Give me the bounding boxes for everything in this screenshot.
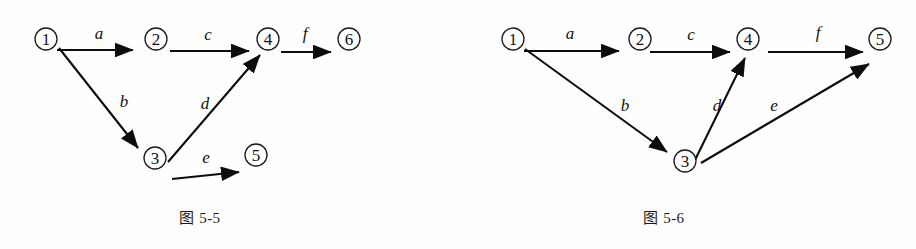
- node-1: 1: [35, 28, 57, 50]
- node-1-label: 1: [42, 30, 51, 49]
- edge-e: [701, 64, 869, 163]
- figure-5-6-graph: a c f b d e 1 2 4: [458, 0, 916, 200]
- edge-label-a: a: [566, 24, 575, 43]
- nodes-group: 1 2 4 5 3: [502, 28, 891, 172]
- node-3: 3: [144, 147, 166, 169]
- edges-group: [57, 48, 331, 179]
- edge-label-d: d: [201, 94, 210, 113]
- edge-label-b: b: [120, 92, 129, 111]
- edge-label-a: a: [95, 24, 104, 43]
- node-5-label: 5: [252, 146, 261, 165]
- node-5: 5: [869, 28, 891, 50]
- node-4-label: 4: [264, 30, 273, 49]
- node-2: 2: [145, 28, 167, 50]
- edges-group: [524, 49, 869, 163]
- figure-page: a c f b d e 1 2 4: [0, 0, 916, 249]
- node-3: 3: [674, 150, 696, 172]
- figure-5-5: a c f b d e 1 2 4: [0, 0, 458, 249]
- edge-d: [168, 55, 260, 162]
- edge-label-e: e: [770, 96, 778, 115]
- edge-label-c: c: [687, 25, 695, 44]
- edge-label-b: b: [621, 96, 630, 115]
- edge-labels-group: a c f b d e: [566, 23, 823, 115]
- edge-label-f: f: [816, 23, 823, 42]
- node-4: 4: [737, 28, 759, 50]
- node-5: 5: [245, 144, 267, 166]
- node-4: 4: [257, 28, 279, 50]
- edge-label-d: d: [713, 96, 722, 115]
- edge-b: [525, 49, 667, 152]
- edge-e: [172, 172, 239, 179]
- edge-label-f: f: [303, 24, 310, 43]
- node-6: 6: [338, 28, 360, 50]
- figure-5-6-caption: 图 5-6: [458, 206, 870, 227]
- node-2-label: 2: [636, 30, 645, 49]
- node-2: 2: [629, 28, 651, 50]
- edge-label-e: e: [202, 148, 210, 167]
- figure-5-6: a c f b d e 1 2 4: [458, 0, 916, 249]
- figure-5-5-caption: 图 5-5: [0, 206, 400, 227]
- node-2-label: 2: [152, 30, 161, 49]
- node-1: 1: [502, 28, 524, 50]
- node-3-label: 3: [151, 149, 160, 168]
- node-5-label: 5: [876, 30, 885, 49]
- figure-5-5-graph: a c f b d e 1 2 4: [0, 0, 458, 200]
- node-4-label: 4: [744, 30, 753, 49]
- node-3-label: 3: [681, 152, 690, 171]
- node-1-label: 1: [509, 30, 518, 49]
- node-6-label: 6: [345, 30, 354, 49]
- edge-label-c: c: [204, 25, 212, 44]
